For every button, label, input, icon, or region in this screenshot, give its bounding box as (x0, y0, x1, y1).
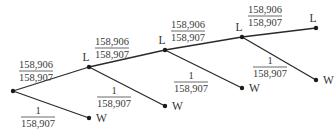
edge-probability-L1-L2: 158,906158,907 (95, 36, 129, 60)
edge-probability-L2-L3: 158,906158,907 (171, 19, 205, 43)
edge-probability-root-W1: 1158,907 (21, 105, 55, 129)
edge-probability-root-L1: 158,906158,907 (19, 59, 53, 83)
fraction-denominator: 158,907 (19, 72, 53, 83)
edge-root-W1 (13, 91, 89, 118)
fraction-numerator: 1 (188, 70, 193, 81)
edge-probability-L1-W2: 1158,907 (97, 85, 131, 109)
node-label-L3: L (235, 21, 242, 33)
edge-probability-L2-W3: 1158,907 (174, 70, 208, 94)
node-label-W4: W (323, 74, 334, 86)
edge-L3-L4 (242, 28, 316, 37)
fraction-denominator: 158,907 (174, 83, 208, 94)
node-label-W3: W (249, 82, 260, 94)
node-label-L2: L (158, 34, 165, 46)
node-W2 (163, 104, 167, 108)
node-label-W1: W (96, 112, 107, 124)
fraction-numerator: 1 (35, 105, 40, 116)
node-label-L1: L (82, 51, 89, 63)
fraction-numerator: 158,906 (248, 4, 282, 15)
node-L3 (240, 35, 244, 39)
node-W3 (240, 86, 244, 90)
probability-tree: 158,906158,9071158,907158,906158,9071158… (0, 0, 336, 134)
fraction-numerator: 1 (111, 85, 116, 96)
node-label-L4: L (309, 12, 316, 24)
fraction-denominator: 158,907 (21, 118, 55, 129)
node-W1 (87, 116, 91, 120)
node-L2 (163, 48, 167, 52)
fraction-denominator: 158,907 (171, 32, 205, 43)
node-L4 (314, 26, 318, 30)
fraction-numerator: 1 (267, 55, 272, 66)
fraction-denominator: 158,907 (95, 49, 129, 60)
fraction-denominator: 158,907 (248, 17, 282, 28)
node-root (11, 89, 15, 93)
node-label-W2: W (172, 100, 183, 112)
fraction-numerator: 158,906 (19, 59, 53, 70)
edge-probability-L3-L4: 158,906158,907 (248, 4, 282, 28)
edge-probability-L3-W4: 1158,907 (253, 55, 287, 79)
node-W4 (314, 78, 318, 82)
node-L1 (87, 65, 91, 69)
fraction-numerator: 158,906 (95, 36, 129, 47)
fraction-numerator: 158,906 (171, 19, 205, 30)
fraction-denominator: 158,907 (97, 98, 131, 109)
fraction-denominator: 158,907 (253, 68, 287, 79)
